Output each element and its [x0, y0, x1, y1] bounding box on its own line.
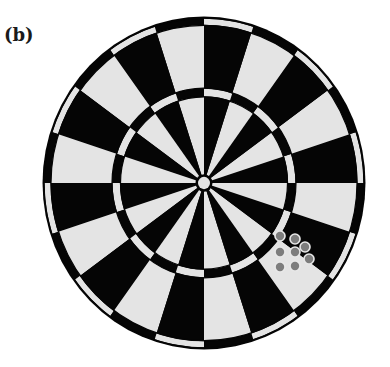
dart-hit-dot [291, 262, 299, 270]
dart-hit-dot [301, 243, 309, 251]
dart-hit-dot [305, 255, 313, 263]
dartboard-figure [0, 0, 390, 367]
dart-hit-dot [276, 248, 284, 256]
bullseye [198, 177, 210, 189]
dart-hit-dot [291, 248, 299, 256]
dart-hit-dot [276, 263, 284, 271]
dart-hit-dot [276, 232, 284, 240]
dart-hit-dot [291, 235, 299, 243]
dartboard-rings [43, 16, 366, 349]
dartboard [0, 0, 390, 367]
